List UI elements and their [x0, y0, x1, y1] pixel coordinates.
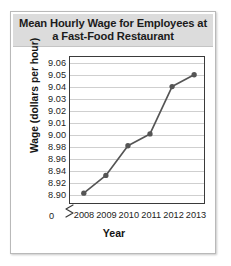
plot-area: 8.908.928.948.968.989.009.019.029.039.04…	[69, 56, 205, 204]
y-tick-label: 9.03	[48, 94, 66, 104]
y-axis-title: Wage (dollars per hour)	[29, 21, 40, 171]
x-tick-label: 2010	[119, 210, 139, 220]
y-tick-label: 8.92	[48, 178, 66, 188]
x-tick-label: 2012	[163, 210, 183, 220]
y-tick-label: 9.05	[48, 70, 66, 80]
y-tick-label: 9.01	[48, 118, 66, 128]
y-tick-label: 8.98	[48, 142, 66, 152]
data-series-line	[70, 57, 204, 203]
data-point-marker	[81, 190, 86, 195]
data-point-marker	[147, 131, 152, 136]
x-tick-label: 2011	[141, 210, 161, 220]
x-tick-label: 2013	[186, 210, 206, 220]
x-tick-label: 2009	[96, 210, 116, 220]
line-path	[84, 75, 194, 193]
axis-break-icon	[63, 204, 77, 220]
data-point-marker	[169, 84, 174, 89]
marker-group	[81, 72, 197, 196]
y-tick-label: 9.00	[48, 130, 66, 140]
data-point-marker	[191, 72, 196, 77]
y-tick-label: 9.02	[48, 106, 66, 116]
data-point-marker	[103, 173, 108, 178]
y-tick-label: 9.04	[48, 82, 66, 92]
data-point-marker	[125, 143, 130, 148]
y-tick-label: 8.94	[48, 166, 66, 176]
y-tick-label: 9.06	[48, 58, 66, 68]
title-banner: Mean Hourly Wage for Employees at a Fast…	[13, 14, 213, 47]
chart-title: Mean Hourly Wage for Employees at a Fast…	[13, 17, 213, 43]
x-axis-title: Year	[11, 227, 217, 239]
y-tick-label: 8.90	[48, 190, 66, 200]
figure-frame: Mean Hourly Wage for Employees at a Fast…	[10, 11, 216, 254]
y-tick-label: 8.96	[48, 154, 66, 164]
y-axis-zero-label: 0	[49, 211, 54, 221]
